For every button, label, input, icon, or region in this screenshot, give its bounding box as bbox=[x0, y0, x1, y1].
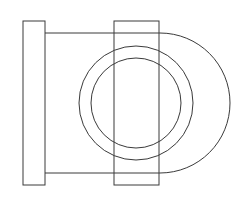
inner-circle bbox=[91, 58, 181, 148]
middle-circle bbox=[79, 46, 193, 160]
outer-arc bbox=[160, 33, 230, 173]
left-flange-rect bbox=[23, 21, 45, 185]
technical-drawing bbox=[0, 0, 232, 201]
